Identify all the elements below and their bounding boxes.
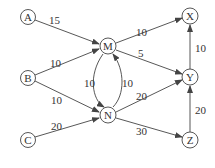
weight-Z-Y: 20: [195, 104, 207, 116]
node-C: C: [21, 133, 36, 148]
weight-B-M: 10: [50, 57, 62, 69]
edge-C-N: [35, 118, 99, 137]
weight-M-N: 10: [84, 77, 96, 89]
weight-A-M: 15: [49, 14, 61, 26]
node-B: B: [21, 71, 36, 86]
node-N: N: [100, 107, 116, 123]
weight-C-N: 20: [51, 120, 63, 132]
node-Z: Z: [182, 132, 198, 148]
edge-N-Z: [116, 118, 182, 137]
node-label-M: M: [103, 40, 113, 52]
weight-N-Z: 30: [136, 125, 148, 137]
node-X: X: [182, 8, 198, 24]
node-label-C: C: [24, 134, 31, 146]
node-label-Z: Z: [187, 134, 194, 146]
edge-B-M: [35, 49, 99, 75]
node-label-Y: Y: [186, 71, 194, 83]
edge-N-M: [113, 54, 122, 107]
node-Y: Y: [182, 69, 198, 85]
node-label-A: A: [24, 11, 32, 23]
graph-diagram: 15 10 10 20 10 10 10 5 20 30 10 20 A B C…: [0, 0, 215, 168]
node-M: M: [100, 38, 116, 54]
weight-Y-X: 10: [195, 42, 207, 54]
node-label-N: N: [104, 109, 112, 121]
weight-M-X: 10: [136, 26, 148, 38]
weight-B-N: 10: [51, 94, 63, 106]
node-label-B: B: [24, 72, 31, 84]
node-label-X: X: [186, 10, 194, 22]
node-A: A: [21, 10, 36, 25]
nodes: A B C M N X Y Z: [21, 8, 199, 148]
edge-M-Y: [116, 50, 182, 74]
weight-N-M: 10: [122, 77, 134, 89]
edge-A-M: [35, 20, 99, 44]
edge-M-X: [116, 18, 182, 43]
weight-N-Y: 20: [136, 90, 148, 102]
weight-M-Y: 5: [138, 47, 144, 59]
